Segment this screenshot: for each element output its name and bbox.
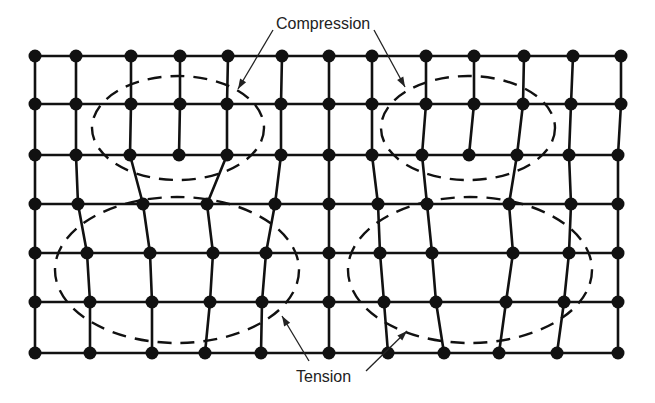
grid-node [565, 98, 578, 111]
grid-node [612, 198, 625, 211]
grid-node [567, 50, 580, 63]
grid-node [269, 198, 282, 211]
grid-node [207, 247, 220, 260]
grid-node [29, 50, 42, 63]
compression-zone [381, 76, 555, 180]
grid-node [468, 50, 481, 63]
grid-node [563, 247, 576, 260]
grid-node [378, 296, 391, 309]
grid-node [124, 149, 137, 162]
grid-node [72, 198, 85, 211]
deformed-grid-diagram [0, 0, 655, 403]
grid-node [558, 296, 571, 309]
grid-node [276, 50, 289, 63]
grid-node [260, 247, 273, 260]
grid-node [29, 198, 42, 211]
grid-node [421, 198, 434, 211]
grid-node [518, 50, 531, 63]
grid-node [256, 296, 269, 309]
arrowhead-icon [282, 316, 290, 326]
grid-node [551, 347, 564, 360]
grid-node [503, 198, 516, 211]
grid-node [366, 98, 379, 111]
grid-node [125, 98, 138, 111]
arrowhead-icon [397, 77, 405, 87]
grid-node [221, 149, 234, 162]
grid-node [615, 98, 628, 111]
grid-node [29, 149, 42, 162]
grid-node [517, 98, 530, 111]
grid-node [84, 296, 97, 309]
grid-node [125, 50, 138, 63]
grid-node [137, 198, 150, 211]
grid-node [612, 247, 625, 260]
grid-node [29, 296, 42, 309]
grid-node [468, 98, 481, 111]
compression-zone [92, 76, 264, 180]
grid-node [174, 50, 187, 63]
grid-node [70, 149, 83, 162]
grid-node [323, 98, 336, 111]
grid-node [174, 98, 187, 111]
grid-node [612, 347, 625, 360]
grid-node [84, 347, 97, 360]
grid-node [426, 247, 439, 260]
compression-leader-line [238, 30, 273, 89]
grid-node [199, 347, 212, 360]
grid-node [204, 296, 217, 309]
grid-node [511, 149, 524, 162]
grid-node [463, 149, 476, 162]
grid-node [29, 347, 42, 360]
grid-node [323, 347, 336, 360]
grid-node [323, 149, 336, 162]
grid-node [323, 198, 336, 211]
grid-node [275, 149, 288, 162]
grid-node [275, 98, 288, 111]
grid-node [221, 98, 234, 111]
grid-node [255, 347, 268, 360]
grid-node [366, 149, 379, 162]
grid-node [366, 50, 379, 63]
grid-node [374, 247, 387, 260]
grid-node [615, 50, 628, 63]
grid-node [81, 247, 94, 260]
grid-node [382, 347, 395, 360]
grid-node [222, 50, 235, 63]
grid-node [173, 149, 186, 162]
grid-node [563, 149, 576, 162]
tension-label: Tension [296, 368, 351, 386]
grid-node [323, 247, 336, 260]
grid-node [612, 296, 625, 309]
grid-node [29, 247, 42, 260]
grid-node [612, 149, 625, 162]
grid-node [323, 50, 336, 63]
grid-node [146, 296, 159, 309]
grid-node [493, 347, 506, 360]
grid-node [323, 296, 336, 309]
grid-node [416, 149, 429, 162]
grid-node [201, 198, 214, 211]
grid-node [438, 347, 451, 360]
grid-node [70, 98, 83, 111]
grid-node [70, 50, 83, 63]
grid-node [507, 247, 520, 260]
grid-node [500, 296, 513, 309]
compression-label: Compression [276, 15, 370, 33]
grid-node [420, 50, 433, 63]
grid-node [146, 347, 159, 360]
grid-node [565, 198, 578, 211]
arrowhead-icon [238, 79, 246, 89]
grid-node [420, 98, 433, 111]
grid-node [430, 296, 443, 309]
grid-node [372, 198, 385, 211]
grid-node [144, 247, 157, 260]
grid-node [29, 98, 42, 111]
